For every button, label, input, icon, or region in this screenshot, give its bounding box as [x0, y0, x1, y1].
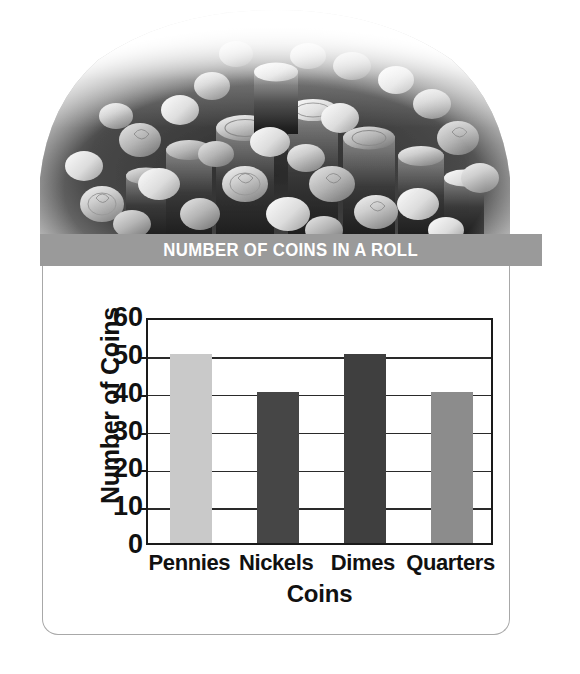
- y-tick-mark: [141, 357, 148, 359]
- y-tick-label: 50: [85, 342, 143, 369]
- bar-pennies: [170, 354, 212, 543]
- x-tick-label: Nickels: [233, 550, 320, 576]
- x-tick-label: Quarters: [406, 550, 493, 576]
- bar-quarters: [431, 392, 473, 543]
- y-tick-label: 60: [85, 304, 143, 331]
- bar-nickels: [257, 392, 299, 543]
- y-tick-mark: [141, 508, 148, 510]
- coins-photo: [40, 8, 510, 240]
- x-axis-title: Coins: [146, 580, 493, 608]
- y-tick-mark: [141, 395, 148, 397]
- y-tick-mark: [141, 470, 148, 472]
- y-tick-label: 20: [85, 455, 143, 482]
- y-tick-mark: [141, 433, 148, 435]
- y-tick-label: 30: [85, 418, 143, 445]
- x-tick-label: Pennies: [146, 550, 233, 576]
- y-tick-label: 10: [85, 493, 143, 520]
- x-tick-label: Dimes: [320, 550, 407, 576]
- y-tick-label: 40: [85, 380, 143, 407]
- figure-card: NUMBER OF COINS IN A ROLL Number of Coin…: [40, 0, 510, 636]
- bar-dimes: [344, 354, 386, 543]
- chart-panel: Number of Coins 6050403020100 Coins Penn…: [42, 266, 510, 635]
- plot-area: [146, 318, 493, 545]
- bar-chart: Number of Coins 6050403020100 Coins Penn…: [43, 266, 511, 635]
- y-tick-label: 0: [85, 531, 143, 558]
- chart-title-banner: NUMBER OF COINS IN A ROLL: [40, 234, 542, 266]
- chart-title: NUMBER OF COINS IN A ROLL: [164, 239, 419, 261]
- y-axis-tick-labels: 6050403020100: [85, 266, 143, 635]
